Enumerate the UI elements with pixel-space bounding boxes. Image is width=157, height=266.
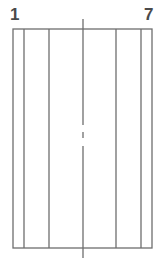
panel-diagram bbox=[0, 0, 157, 266]
